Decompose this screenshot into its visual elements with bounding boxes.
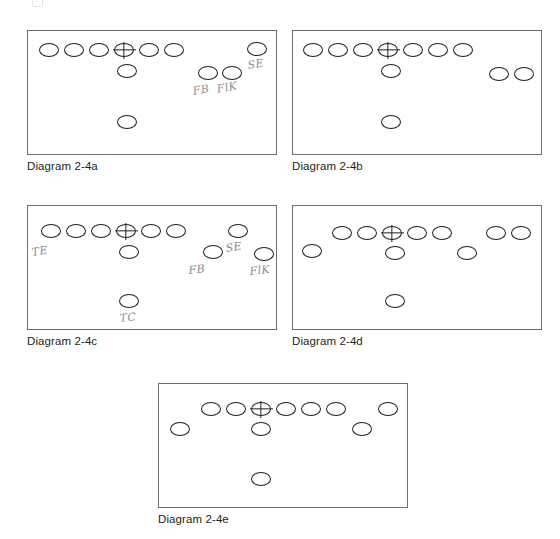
handwritten-label-fb: FB: [192, 83, 210, 97]
player-marker-lineman-2: [64, 43, 84, 57]
handwritten-label-se: SE: [247, 58, 265, 71]
handwritten-label-tc: TC: [119, 311, 137, 324]
player-marker-lineman-3: [89, 43, 109, 57]
player-marker-flanker: [254, 247, 274, 261]
player-marker-tailback: [119, 294, 139, 308]
player-marker-lineman-1: [39, 43, 59, 57]
player-marker-tight-end: [378, 402, 398, 416]
player-marker-lineman-5: [141, 224, 161, 238]
player-marker-quarterback: [385, 246, 405, 260]
player-marker-slot-back: [457, 246, 477, 260]
diagram-caption-2-4b: Diagram 2-4b: [292, 159, 363, 173]
player-marker-quarterback: [119, 245, 139, 259]
diagram-caption-2-4d: Diagram 2-4d: [292, 334, 363, 348]
player-marker-tailback: [385, 294, 405, 308]
player-marker-split-end: [247, 42, 267, 56]
player-marker-split-end: [514, 67, 534, 81]
handwritten-label-flk: FlK: [249, 264, 271, 277]
diagram-caption-2-4a: Diagram 2-4a: [27, 159, 98, 173]
worksheet-page: SEFBFlKDiagram 2-4aDiagram 2-4bTESEFBFlK…: [0, 0, 560, 539]
player-marker-center: [116, 224, 136, 238]
player-marker-lineman-1: [201, 402, 221, 416]
player-marker-lineman-4: [276, 402, 296, 416]
player-marker-center: [378, 43, 398, 57]
player-marker-lineman-4: [407, 226, 427, 240]
player-marker-lineman-5: [403, 43, 423, 57]
player-marker-center: [114, 43, 134, 57]
player-marker-lineman-1: [41, 224, 61, 238]
player-marker-fullback: [198, 66, 218, 80]
player-marker-quarterback: [251, 422, 271, 436]
player-marker-lineman-6: [166, 224, 186, 238]
player-marker-tailback: [381, 115, 401, 129]
player-marker-quarterback: [117, 64, 137, 78]
player-marker-split-end-left: [170, 422, 190, 436]
cut-off-glyph-icon: [32, 0, 43, 7]
player-marker-lineman-2: [66, 224, 86, 238]
player-marker-flanker: [222, 66, 242, 80]
player-marker-lineman-3: [353, 43, 373, 57]
player-marker-lineman-2: [357, 226, 377, 240]
handwritten-label-fb: FB: [188, 263, 206, 276]
player-marker-tight-end: [453, 43, 473, 57]
diagram-caption-2-4e: Diagram 2-4e: [158, 512, 229, 526]
player-marker-tight-end: [511, 226, 531, 240]
diagram-field-box-2-4d: [292, 205, 542, 330]
handwritten-label-flk: FlK: [216, 80, 238, 94]
player-marker-lineman-6: [164, 43, 184, 57]
diagram-caption-2-4c: Diagram 2-4c: [27, 334, 97, 348]
player-marker-tailback: [117, 115, 137, 129]
player-marker-slot-back: [352, 422, 372, 436]
player-marker-tailback: [251, 472, 271, 486]
player-marker-split-end-left: [302, 244, 322, 258]
player-marker-lineman-5: [301, 402, 321, 416]
player-marker-lineman-1: [332, 226, 352, 240]
player-marker-fullback: [203, 245, 223, 259]
player-marker-lineman-6: [326, 402, 346, 416]
player-marker-lineman-6: [428, 43, 448, 57]
player-marker-lineman-5: [139, 43, 159, 57]
player-marker-lineman-2: [226, 402, 246, 416]
player-marker-quarterback: [381, 64, 401, 78]
player-marker-split-end: [228, 224, 248, 238]
player-marker-lineman-5: [432, 226, 452, 240]
handwritten-label-te: TE: [31, 245, 49, 258]
player-marker-lineman-1: [303, 43, 323, 57]
player-marker-center: [251, 402, 271, 416]
player-marker-center: [382, 226, 402, 240]
handwritten-label-se: SE: [225, 241, 243, 254]
player-marker-flanker: [489, 67, 509, 81]
player-marker-lineman-2: [328, 43, 348, 57]
player-marker-lineman-3: [91, 224, 111, 238]
player-marker-flanker: [486, 226, 506, 240]
